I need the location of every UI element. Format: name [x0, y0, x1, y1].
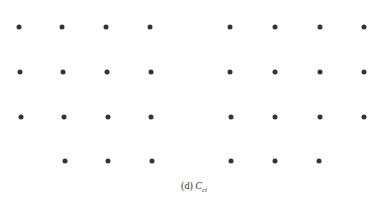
lattice-dot: [318, 70, 323, 75]
lattice-dot: [106, 159, 111, 164]
lattice-dot: [148, 25, 153, 30]
lattice-dot: [362, 115, 367, 120]
caption-symbol: C: [195, 180, 202, 191]
lattice-dot: [105, 70, 110, 75]
lattice-dot: [273, 70, 278, 75]
lattice-dot: [150, 159, 155, 164]
lattice-dot: [317, 159, 322, 164]
lattice-dot: [104, 25, 109, 30]
lattice-dot: [19, 115, 24, 120]
lattice-dot: [229, 159, 234, 164]
lattice-dot: [149, 115, 154, 120]
lattice-dot: [273, 25, 278, 30]
lattice-dot: [228, 70, 233, 75]
figure-caption: (d) Cci: [0, 180, 388, 194]
lattice-dot: [63, 159, 68, 164]
lattice-dot: [362, 25, 367, 30]
lattice-dot: [318, 115, 323, 120]
dot-lattice-figure: (d) Cci: [0, 0, 388, 198]
lattice-dot: [62, 115, 67, 120]
lattice-dot: [362, 70, 367, 75]
lattice-dot: [273, 115, 278, 120]
caption-subscript: ci: [202, 186, 207, 194]
lattice-dot: [318, 25, 323, 30]
lattice-dot: [106, 115, 111, 120]
lattice-dot: [229, 115, 234, 120]
caption-label: (d): [181, 180, 193, 191]
lattice-dot: [17, 25, 22, 30]
lattice-dot: [228, 25, 233, 30]
lattice-dot: [18, 70, 23, 75]
lattice-dot: [273, 159, 278, 164]
lattice-dot: [60, 25, 65, 30]
lattice-dot: [149, 70, 154, 75]
lattice-dot: [61, 70, 66, 75]
